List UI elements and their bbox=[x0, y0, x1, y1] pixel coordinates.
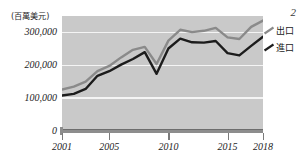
series-line-進口 bbox=[62, 37, 263, 96]
x-tick bbox=[62, 133, 63, 140]
x-tick-label: 2005 bbox=[99, 141, 119, 152]
x-tick bbox=[228, 133, 229, 140]
legend-label-import: 進口 bbox=[276, 41, 294, 54]
y-tick-label: 0 bbox=[52, 125, 57, 136]
x-tick-label: 2018 bbox=[253, 141, 273, 152]
line-swatch-icon bbox=[264, 43, 274, 52]
x-tick-label: 2001 bbox=[52, 141, 72, 152]
legend-item-export: 出口 bbox=[264, 22, 304, 39]
x-tick-label: 2015 bbox=[218, 141, 238, 152]
series-lines bbox=[62, 16, 263, 131]
x-axis-line bbox=[62, 129, 263, 133]
x-tick-label: 2010 bbox=[158, 141, 178, 152]
legend-item-import: 進口 bbox=[264, 39, 304, 56]
y-tick-label: 100,000 bbox=[25, 92, 58, 103]
y-tick-label: 200,000 bbox=[25, 59, 58, 70]
line-swatch-icon bbox=[264, 26, 274, 35]
y-tick-label: 300,000 bbox=[25, 26, 58, 37]
x-tick bbox=[263, 133, 264, 140]
page-marker: 2 bbox=[291, 6, 297, 18]
legend-label-export: 出口 bbox=[276, 24, 294, 37]
x-tick bbox=[168, 133, 169, 140]
trade-line-chart-figure: (百萬美元) 2 300,000200,000100,0000 20012005… bbox=[0, 0, 304, 168]
y-axis-tick-labels: 300,000200,000100,0000 bbox=[0, 0, 57, 168]
chart-legend: 出口 進口 bbox=[264, 22, 304, 56]
plot-area bbox=[62, 16, 263, 131]
x-tick bbox=[109, 133, 110, 140]
